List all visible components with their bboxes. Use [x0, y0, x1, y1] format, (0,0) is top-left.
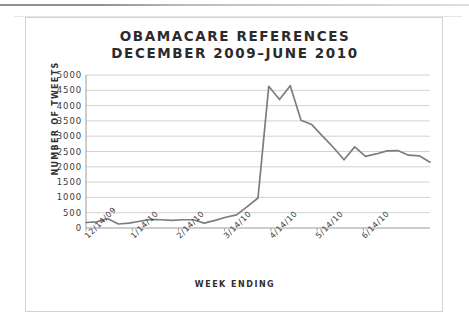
x-axis-title: WEEK ENDING — [26, 280, 444, 289]
y-tick-label: 4000 — [36, 101, 82, 111]
chart-subtitle: DECEMBER 2009–JUNE 2010 — [26, 45, 444, 62]
y-tick-label: 4500 — [36, 85, 82, 95]
chart-title-block: OBAMACARE REFERENCES DECEMBER 2009–JUNE … — [26, 28, 444, 62]
x-axis-tick-labels: 12/14/091/14/102/14/103/14/104/14/105/14… — [86, 230, 430, 276]
y-tick-label: 5000 — [36, 70, 82, 80]
chart-frame: OBAMACARE REFERENCES DECEMBER 2009–JUNE … — [25, 17, 443, 312]
data-series-layer — [86, 75, 430, 228]
y-axis-tick-labels: 0500100015002000250030003500400045005000 — [30, 75, 82, 228]
y-tick-label: 3000 — [36, 131, 82, 141]
y-tick-label: 2500 — [36, 147, 82, 157]
y-tick-label: 2000 — [36, 162, 82, 172]
line-series-obamacare-tweets — [86, 86, 430, 224]
y-tick-label: 3500 — [36, 116, 82, 126]
scan-artifact-top-rule — [0, 4, 469, 6]
y-tick-label: 500 — [36, 208, 82, 218]
plot-area — [86, 75, 430, 228]
y-tick-label: 1500 — [36, 177, 82, 187]
y-tick-label: 0 — [36, 223, 82, 233]
y-tick-label: 1000 — [36, 192, 82, 202]
chart-title: OBAMACARE REFERENCES — [26, 28, 444, 45]
